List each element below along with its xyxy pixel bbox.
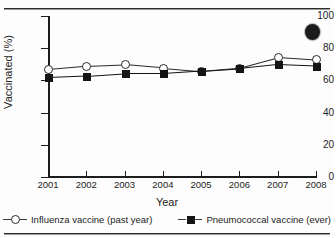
data-point (83, 73, 91, 81)
filled-square-icon (178, 215, 202, 224)
data-point (313, 63, 321, 71)
series-line-segment (239, 64, 277, 69)
series-line-segment (163, 71, 201, 74)
x-tick-label: 2003 (105, 180, 145, 190)
series-line-segment (201, 68, 239, 71)
x-tick-label: 2006 (219, 180, 259, 190)
series-line-segment (48, 76, 86, 79)
series-line-segment (86, 73, 124, 76)
x-axis-title: Year (0, 196, 334, 208)
x-tick-label: 2007 (258, 180, 298, 190)
data-point (236, 65, 244, 73)
x-tick (316, 171, 317, 178)
series-line-segment (125, 73, 163, 74)
data-point (275, 61, 283, 69)
legend-item-influenza: Influenza vaccine (past year) (3, 214, 152, 225)
scan-blob-artifact (305, 24, 320, 40)
legend-label-pneumococcal: Pneumococcal vaccine (ever) (206, 214, 331, 225)
data-point (45, 74, 53, 82)
chart-legend: Influenza vaccine (past year) Pneumococc… (0, 214, 334, 225)
data-point (160, 70, 168, 78)
data-point (198, 68, 206, 76)
x-tick-label: 2004 (143, 180, 183, 190)
x-tick-label: 2002 (66, 180, 106, 190)
data-point (122, 70, 130, 78)
plot-area (48, 16, 316, 177)
y-axis-title: Vaccinated (%) (2, 12, 14, 132)
legend-label-influenza: Influenza vaccine (past year) (31, 214, 152, 225)
open-circle-icon (3, 215, 27, 224)
page-rule-top-shadow (4, 9, 330, 10)
series-line-segment (278, 64, 316, 67)
page-rule-bottom-shadow (4, 234, 330, 235)
legend-item-pneumococcal: Pneumococcal vaccine (ever) (178, 214, 331, 225)
series-pneumococcal (48, 16, 316, 177)
x-tick-label: 2008 (296, 180, 336, 190)
x-tick-label: 2005 (181, 180, 221, 190)
x-tick-label: 2001 (28, 180, 68, 190)
